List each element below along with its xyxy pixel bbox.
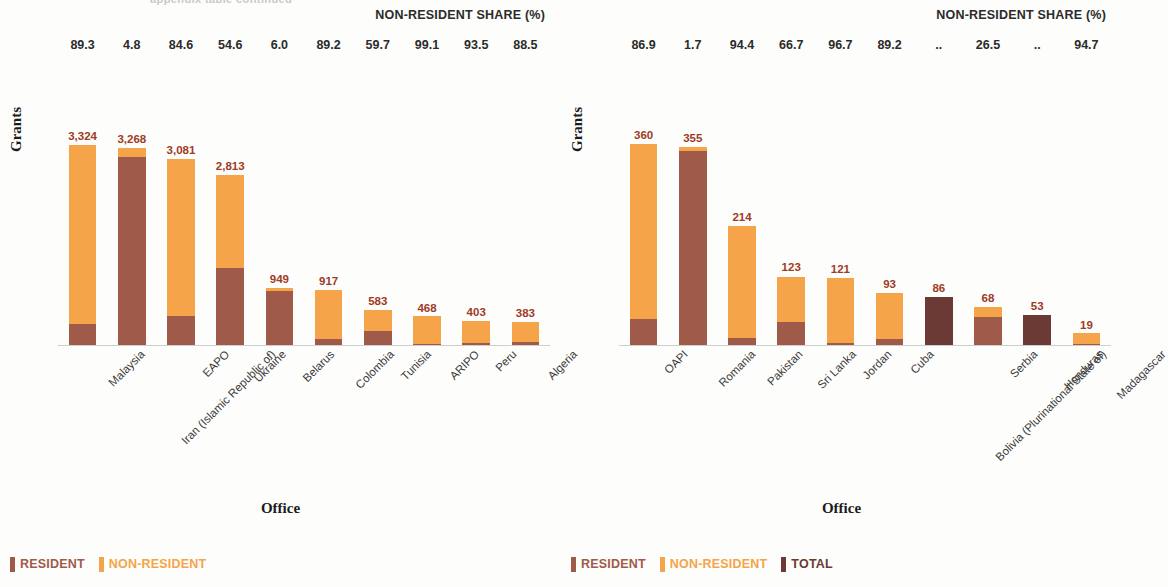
bar-value-label: 949 — [270, 273, 289, 285]
bar-group[interactable] — [679, 147, 707, 345]
x-tick-label: Honduras — [1062, 348, 1106, 392]
bar-group[interactable] — [827, 278, 855, 345]
non-resident-share-value: 94.7 — [1062, 38, 1111, 52]
bar-segment-resident — [69, 324, 97, 345]
non-resident-share-value: 99.1 — [402, 38, 451, 52]
legend-label: RESIDENT — [581, 557, 646, 571]
non-resident-share-value: 84.6 — [156, 38, 205, 52]
bar-segment-resident — [630, 319, 658, 345]
bar-value-label: 2,813 — [216, 160, 245, 172]
bar-value-label: 3,324 — [68, 130, 97, 142]
bar-group[interactable] — [728, 226, 756, 345]
legend-item[interactable]: TOTAL — [781, 557, 833, 572]
bar-segment-resident — [167, 316, 195, 345]
y-axis-title-left: Grants — [8, 107, 25, 152]
bar-value-label: 68 — [982, 292, 995, 304]
non-resident-share-value: 89.3 — [58, 38, 107, 52]
share-value-row-right: 86.91.794.466.796.789.2..26.5..94.7 — [561, 38, 1122, 56]
non-resident-share-value: 89.2 — [304, 38, 353, 52]
legend-right: RESIDENTNON-RESIDENTTOTAL — [571, 555, 833, 573]
bar-group[interactable] — [364, 310, 392, 345]
bar-value-label: 123 — [782, 261, 801, 273]
bar-group[interactable] — [315, 290, 343, 345]
bar-group[interactable] — [1023, 315, 1051, 345]
bar-segment-resident — [728, 338, 756, 345]
legend-item[interactable]: RESIDENT — [571, 557, 646, 572]
legend-item[interactable]: RESIDENT — [10, 557, 85, 572]
plot-area-right: 3603552141231219386685319 — [619, 140, 1111, 345]
non-resident-share-value: 4.8 — [107, 38, 156, 52]
bar-segment-non-resident — [216, 175, 244, 268]
non-resident-share-value: 88.5 — [501, 38, 550, 52]
bar-segment-non-resident — [679, 147, 707, 150]
bar-group[interactable] — [974, 307, 1002, 345]
bar-group[interactable] — [413, 317, 441, 345]
bar-value-label: 468 — [417, 302, 436, 314]
non-resident-share-value: 96.7 — [816, 38, 865, 52]
bar-group[interactable] — [216, 175, 244, 345]
legend-swatch-icon — [10, 557, 15, 572]
bar-group[interactable] — [462, 321, 490, 345]
bar-group[interactable] — [266, 288, 294, 345]
bar-value-label: 53 — [1031, 300, 1044, 312]
x-tick-label: Cuba — [908, 348, 936, 376]
legend-swatch-icon — [571, 557, 576, 572]
legend-item[interactable]: NON-RESIDENT — [99, 557, 207, 572]
chart-panel-right: NON-RESIDENT SHARE (%) 86.91.794.466.796… — [561, 0, 1122, 587]
bar-group[interactable] — [925, 297, 953, 345]
x-tick-label: Belarus — [301, 348, 337, 384]
legend-swatch-icon — [660, 557, 665, 572]
legend-swatch-icon — [99, 557, 104, 572]
bar-segment-non-resident — [167, 159, 195, 316]
legend-item[interactable]: NON-RESIDENT — [660, 557, 768, 572]
bar-segment-non-resident — [364, 310, 392, 331]
plot-area-left: 3,3243,2683,0812,813949917583468403383 — [58, 140, 550, 345]
bar-value-label: 93 — [883, 278, 896, 290]
non-resident-share-value: .. — [1013, 38, 1062, 52]
bar-segment-total — [1023, 315, 1051, 345]
bar-value-label: 3,268 — [117, 133, 146, 145]
x-axis-line-left — [58, 345, 550, 346]
bar-group[interactable] — [512, 322, 540, 345]
non-resident-share-value: 89.2 — [865, 38, 914, 52]
legend-label: NON-RESIDENT — [109, 557, 207, 571]
bar-segment-resident — [364, 331, 392, 345]
bar-group[interactable] — [1073, 334, 1101, 345]
bar-group[interactable] — [69, 145, 97, 345]
bar-value-label: 355 — [683, 132, 702, 144]
bar-segment-resident — [974, 317, 1002, 345]
non-resident-share-value: 66.7 — [767, 38, 816, 52]
bar-segment-non-resident — [69, 145, 97, 324]
non-resident-share-value: 1.7 — [668, 38, 717, 52]
bar-value-label: 360 — [634, 129, 653, 141]
bar-group[interactable] — [167, 159, 195, 345]
x-tick-label: Peru — [493, 348, 519, 374]
bar-segment-total — [925, 297, 953, 345]
bar-group[interactable] — [630, 144, 658, 345]
x-tick-label: EAPO — [200, 348, 231, 379]
non-resident-share-value: 94.4 — [717, 38, 766, 52]
bar-segment-non-resident — [728, 226, 756, 339]
bar-value-label: 917 — [319, 275, 338, 287]
x-tick-label: Pakistan — [765, 348, 805, 388]
bar-value-label: 383 — [516, 307, 535, 319]
x-tick-labels-right: OAPIRomaniaPakistanSri LankaJordanCubaBo… — [619, 348, 1111, 508]
bar-segment-non-resident — [876, 293, 904, 339]
x-tick-label: Serbia — [1008, 348, 1040, 380]
non-resident-share-value: 26.5 — [963, 38, 1012, 52]
bar-value-label: 19 — [1080, 319, 1093, 331]
share-value-row-left: 89.34.884.654.66.089.259.799.193.588.5 — [0, 38, 561, 56]
bar-segment-non-resident — [118, 148, 146, 157]
bar-segment-non-resident — [315, 290, 343, 339]
x-axis-line-right — [619, 345, 1111, 346]
bar-segment-non-resident — [1073, 333, 1101, 343]
bar-segment-resident — [679, 151, 707, 345]
bar-group[interactable] — [876, 293, 904, 345]
bar-segment-non-resident — [630, 144, 658, 318]
x-tick-label: Jordan — [861, 348, 894, 381]
bar-segment-resident — [777, 322, 805, 345]
bar-group[interactable] — [777, 276, 805, 345]
bar-value-label: 403 — [467, 306, 486, 318]
non-resident-share-value: 93.5 — [452, 38, 501, 52]
bar-group[interactable] — [118, 148, 146, 345]
